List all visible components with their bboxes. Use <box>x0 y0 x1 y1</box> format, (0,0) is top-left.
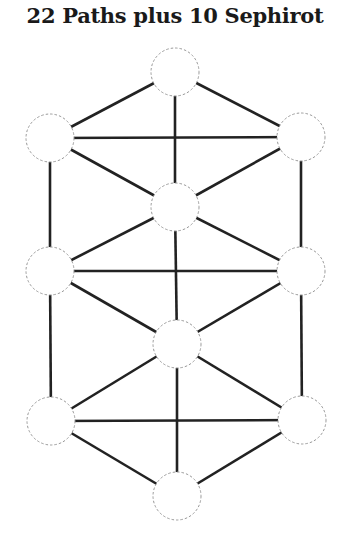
sephira-node-9 <box>278 396 326 444</box>
sephira-node-10 <box>153 472 201 520</box>
sephira-node-7 <box>153 320 201 368</box>
sephira-node-5 <box>26 247 74 295</box>
sephira-node-3 <box>277 113 325 161</box>
sephira-node-4 <box>151 183 199 231</box>
path-line-4 <box>50 137 301 138</box>
paths-group <box>50 72 302 496</box>
sephira-node-1 <box>151 48 199 96</box>
sephira-node-6 <box>277 247 325 295</box>
sephira-node-8 <box>27 397 75 445</box>
tree-of-life-diagram <box>0 0 350 550</box>
sephira-node-2 <box>26 114 74 162</box>
